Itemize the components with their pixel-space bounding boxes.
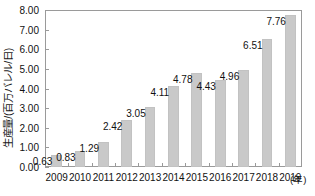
y-axis-tick-mark — [45, 10, 49, 11]
y-axis-tick-label: 2.00 — [5, 122, 39, 133]
y-axis-tick-label: 3.00 — [5, 103, 39, 114]
bar-value-label: 0.63 — [33, 156, 52, 167]
x-axis-tick-label: 2018 — [256, 172, 278, 183]
x-axis-tick-label: 2009 — [46, 172, 68, 183]
x-axis-unit-label: (年) — [290, 172, 306, 186]
y-axis-tick-label: 5.00 — [5, 63, 39, 74]
bar-value-label: 4.43 — [196, 81, 215, 92]
y-axis-tick-label: 8.00 — [5, 5, 39, 16]
bar-value-label: 6.51 — [243, 40, 262, 51]
bar-value-label: 4.78 — [173, 74, 192, 85]
y-axis-tick-mark — [45, 167, 49, 168]
y-axis-tick-label: 7.00 — [5, 24, 39, 35]
y-axis-tick-mark — [45, 89, 49, 90]
x-axis-tick-label: 2014 — [162, 172, 184, 183]
y-axis-tick-mark — [45, 49, 49, 50]
chart-figure: 生産量/(百万バレル/日) 0.001.002.003.004.005.006.… — [0, 0, 315, 196]
bar — [168, 86, 179, 167]
x-axis-tick-mark — [255, 163, 256, 167]
x-axis-tick-label: 2011 — [93, 172, 115, 183]
x-axis-tick-mark — [138, 163, 139, 167]
x-axis-tick-label: 2017 — [232, 172, 254, 183]
y-axis-tick-label: 6.00 — [5, 44, 39, 55]
x-axis-tick-mark — [232, 163, 233, 167]
x-axis-tick-label: 2013 — [139, 172, 161, 183]
bar — [121, 120, 132, 167]
bar-value-label: 0.83 — [56, 152, 75, 163]
bar — [145, 107, 156, 167]
bar — [285, 15, 296, 167]
x-axis-tick-label: 2016 — [209, 172, 231, 183]
y-axis-tick-mark — [45, 30, 49, 31]
x-axis-tick-label: 2015 — [186, 172, 208, 183]
bar-value-label: 1.29 — [80, 143, 99, 154]
y-axis-tick-label: 1.00 — [5, 142, 39, 153]
x-axis-tick-mark — [92, 163, 93, 167]
x-axis-tick-mark — [209, 163, 210, 167]
bar — [215, 80, 226, 167]
x-axis-tick-mark — [68, 163, 69, 167]
y-axis-tick-mark — [45, 147, 49, 148]
bar-value-label: 7.76 — [266, 16, 285, 27]
x-axis-tick-mark — [162, 163, 163, 167]
bar — [262, 39, 273, 167]
bar-value-label: 2.42 — [103, 121, 122, 132]
x-axis-tick-mark — [279, 163, 280, 167]
bar — [238, 70, 249, 167]
bar-value-label: 4.96 — [220, 71, 239, 82]
x-axis-tick-label: 2012 — [116, 172, 138, 183]
y-axis-tick-mark — [45, 108, 49, 109]
bar — [98, 142, 109, 167]
bar-value-label: 4.11 — [150, 87, 169, 98]
y-axis-tick-label: 4.00 — [5, 83, 39, 94]
y-axis-tick-mark — [45, 69, 49, 70]
x-axis-tick-mark — [185, 163, 186, 167]
x-axis-tick-mark — [115, 163, 116, 167]
y-axis-tick-mark — [45, 128, 49, 129]
x-axis-tick-label: 2010 — [69, 172, 91, 183]
bar-value-label: 3.05 — [126, 108, 145, 119]
